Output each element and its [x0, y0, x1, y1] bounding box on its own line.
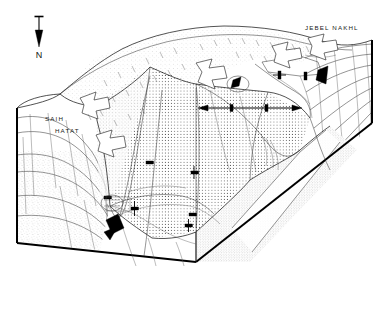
label-jebel-nakhl: JEBEL NAKHL [305, 24, 359, 31]
fault-tick-a [146, 161, 154, 164]
block-diagram-svg: N [0, 0, 379, 321]
north-label: N [36, 50, 43, 60]
fault-tick-h [189, 213, 197, 216]
label-saih: SAIH [45, 115, 64, 122]
figure-root: N [0, 0, 379, 321]
label-hatat: HATAT [55, 127, 80, 134]
fault-tick-f [304, 72, 307, 80]
extension-tick-1 [230, 105, 233, 112]
fault-tick-g [104, 196, 112, 199]
extension-tick-2 [265, 105, 268, 112]
